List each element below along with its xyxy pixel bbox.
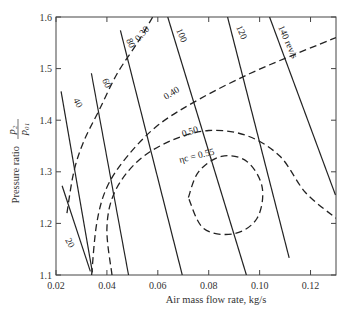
x-tick-label: 0.10 (251, 280, 269, 291)
speed-line-80 (120, 30, 182, 275)
efficiency-label-0.30: 0.30 (133, 24, 152, 43)
svg-text:Pressure ratio: Pressure ratio (10, 146, 21, 203)
speed-line-100 (168, 17, 247, 275)
y-tick-label: 1.1 (40, 270, 53, 281)
efficiency-label-0.50: 0.50 (181, 124, 200, 139)
x-tick-label: 0.02 (47, 280, 65, 291)
y-axis-title: Pressure ratio p₂ p₀₁ (6, 119, 29, 203)
compressor-map-chart: 0.020.040.060.080.100.12 1.11.21.31.41.5… (0, 0, 352, 314)
efficiency-label-0.55: ηc = 0.55 (178, 146, 216, 164)
speed-label-120: 120 (234, 24, 249, 41)
efficiency-contour-0.55 (188, 156, 262, 235)
x-tick-label: 0.04 (98, 280, 116, 291)
y-tick-label: 1.5 (40, 63, 53, 74)
efficiency-contour-0.30 (67, 17, 153, 213)
speed-label-100: 100 (174, 27, 189, 44)
speed-label-40: 40 (71, 96, 84, 109)
speed-label-60: 60 (100, 77, 113, 90)
efficiency-contour-0.50 (107, 130, 336, 275)
y-tick-label: 1.2 (40, 218, 53, 229)
x-tick-label: 0.12 (302, 280, 320, 291)
speed-line-60 (91, 73, 128, 275)
x-tick-label: 0.08 (200, 280, 218, 291)
speed-label-20: 20 (63, 236, 76, 249)
speed-label-140: 140 rev/s (276, 24, 300, 60)
speed-line-20 (62, 186, 90, 272)
efficiency-label-0.40: 0.40 (162, 84, 182, 101)
svg-text:p₀₁: p₀₁ (18, 123, 29, 137)
x-tick-label: 0.06 (149, 280, 167, 291)
speed-line-140 (270, 17, 336, 195)
y-tick-label: 1.3 (40, 166, 53, 177)
svg-text:p₂: p₂ (6, 125, 17, 135)
x-axis-title: Air mass flow rate, kg/s (166, 294, 267, 305)
y-tick-label: 1.6 (40, 12, 53, 23)
speed-line-120 (228, 17, 290, 258)
y-tick-label: 1.4 (40, 115, 53, 126)
